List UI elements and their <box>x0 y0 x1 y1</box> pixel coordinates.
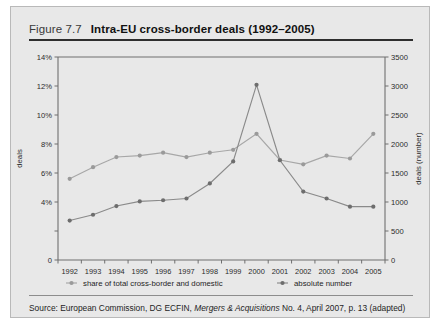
x-tick-label: 2000 <box>248 267 264 276</box>
x-tick-label: 1996 <box>155 267 171 276</box>
data-point <box>184 155 188 159</box>
right-tick-label: 3500 <box>391 53 408 62</box>
data-point <box>208 181 212 185</box>
x-tick-label: 2005 <box>365 267 381 276</box>
data-point <box>184 196 188 200</box>
data-point <box>161 198 165 202</box>
data-point <box>325 196 329 200</box>
x-tick-label: 1998 <box>202 267 218 276</box>
x-tick-label: 1997 <box>178 267 194 276</box>
line-chart: 04%6%8%10%12%14%deals0500100015002000250… <box>0 0 442 326</box>
data-point <box>138 154 142 158</box>
data-point <box>208 151 212 155</box>
right-tick-label: 2000 <box>391 140 408 149</box>
legend-label: absolute number <box>294 279 352 288</box>
left-axis-title: deals <box>15 149 24 168</box>
data-point <box>114 155 118 159</box>
data-point <box>278 158 282 162</box>
left-tick-label: 8% <box>41 140 52 149</box>
left-tick-label: 12% <box>37 82 52 91</box>
data-point <box>231 148 235 152</box>
right-tick-label: 2500 <box>391 111 408 120</box>
left-tick-label: 10% <box>37 111 52 120</box>
right-tick-label: 3000 <box>391 82 408 91</box>
chart-area: 04%6%8%10%12%14%deals0500100015002000250… <box>0 0 442 326</box>
data-point <box>91 213 95 217</box>
x-tick-label: 2003 <box>318 267 334 276</box>
data-point <box>91 165 95 169</box>
x-tick-label: 2004 <box>342 267 358 276</box>
data-point <box>68 218 72 222</box>
data-point <box>301 162 305 166</box>
right-tick-label: 1500 <box>391 169 408 178</box>
data-point <box>348 156 352 160</box>
data-point <box>231 159 235 163</box>
legend-marker-dot <box>69 281 73 285</box>
right-axis-title: deals (number) <box>414 132 423 185</box>
data-point <box>254 132 258 136</box>
data-point <box>325 154 329 158</box>
x-tick-label: 2002 <box>295 267 311 276</box>
data-point <box>138 199 142 203</box>
data-point <box>161 151 165 155</box>
right-tick-label: 0 <box>391 256 395 265</box>
right-tick-label: 1000 <box>391 198 408 207</box>
x-tick-label: 1993 <box>85 267 101 276</box>
data-point <box>254 83 258 87</box>
data-point <box>371 205 375 209</box>
legend-label: share of total cross-border and domestic <box>83 279 223 288</box>
x-tick-label: 1992 <box>61 267 77 276</box>
x-tick-label: 1999 <box>225 267 241 276</box>
left-tick-label: 0 <box>48 256 52 265</box>
right-tick-label: 500 <box>391 227 404 236</box>
data-point <box>114 204 118 208</box>
data-point <box>348 205 352 209</box>
data-point <box>301 189 305 193</box>
data-point <box>371 132 375 136</box>
left-tick-label: 6% <box>41 169 52 178</box>
legend-marker-dot <box>280 281 284 285</box>
left-tick-label: 4% <box>41 198 52 207</box>
x-tick-label: 1995 <box>132 267 148 276</box>
x-tick-label: 2001 <box>272 267 288 276</box>
data-point <box>68 177 72 181</box>
x-tick-label: 1994 <box>108 267 124 276</box>
left-tick-label: 14% <box>37 53 52 62</box>
